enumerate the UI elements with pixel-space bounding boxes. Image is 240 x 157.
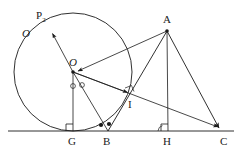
right-angle-marker-G: [66, 124, 73, 131]
segment-O-B: [73, 72, 108, 131]
segment-A-O: [78, 31, 167, 71]
geometry-diagram: O P2 O A I G B H C: [0, 0, 240, 157]
angle-mark-b-2: [107, 122, 111, 126]
label-point-I: I: [128, 99, 132, 110]
label-point-H: H: [163, 136, 171, 147]
segment-A-H: [167, 31, 168, 131]
segment-A-C: [167, 31, 219, 128]
label-P2-subscript: 2: [42, 16, 46, 24]
vertex-dot-O: [71, 70, 75, 74]
label-point-G: G: [68, 136, 76, 147]
label-circle-name: O: [22, 28, 30, 39]
label-vertex-A: A: [163, 14, 171, 25]
label-point-B: B: [103, 136, 110, 147]
label-P2: P2: [36, 10, 46, 24]
vertex-dot-A: [165, 29, 169, 33]
segment-O-C: [73, 72, 218, 127]
angle-arc-H: [158, 126, 163, 131]
label-point-C: C: [220, 136, 227, 147]
right-angle-marker-H: [161, 124, 168, 131]
label-center-O: O: [69, 57, 77, 68]
angle-mark-b-1: [99, 123, 103, 127]
segment-A-B: [108, 31, 167, 131]
